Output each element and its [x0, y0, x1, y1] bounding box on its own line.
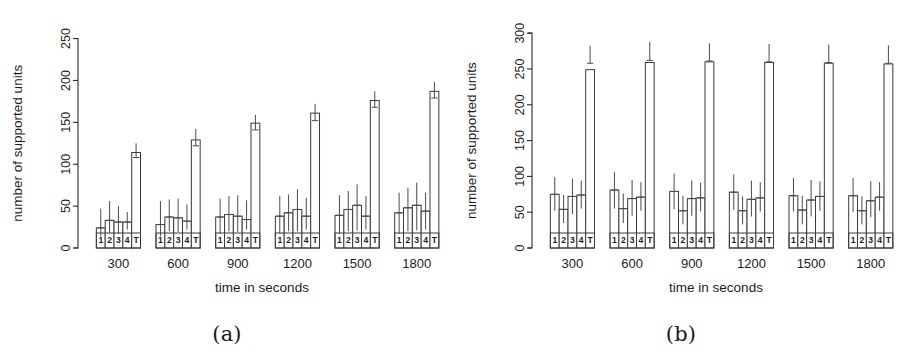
bar-total[interactable]: [645, 63, 654, 248]
bar-label-3: 3: [355, 235, 360, 245]
panel-b-caption: (b): [454, 322, 908, 346]
bar-label-4: 4: [639, 235, 644, 245]
bar-label-1: 1: [337, 235, 342, 245]
bar-label-4: 4: [758, 235, 763, 245]
bar-label-1: 1: [731, 235, 736, 245]
bar-label-2: 2: [621, 235, 626, 245]
x-tick-label: 900: [681, 256, 703, 271]
bar-total[interactable]: [586, 70, 595, 248]
x-tick-label: 600: [167, 256, 189, 271]
x-tick-label: 1200: [283, 256, 312, 271]
bar-group: 1234T1200: [729, 44, 773, 271]
bar-label-3: 3: [414, 235, 419, 245]
bar-group: 1234T600: [156, 129, 200, 271]
bar-group: 1234T1500: [789, 45, 833, 271]
bar-label-3: 3: [749, 235, 754, 245]
bar-label-4: 4: [877, 235, 882, 245]
bar-label-2: 2: [227, 235, 232, 245]
bar-label-3: 3: [630, 235, 635, 245]
bar-label-T: T: [432, 235, 438, 245]
bar-label-T: T: [253, 235, 259, 245]
bar-label-T: T: [647, 235, 653, 245]
bar-label-1: 1: [612, 235, 617, 245]
bar-total[interactable]: [311, 113, 320, 248]
bar-label-1: 1: [277, 235, 282, 245]
bar-label-2: 2: [800, 235, 805, 245]
bar-group: 1234T900: [216, 115, 260, 271]
bar-group: 1234T300: [96, 143, 140, 271]
bar-label-2: 2: [561, 235, 566, 245]
y-tick-label: 50: [513, 205, 527, 219]
bar-total[interactable]: [824, 63, 833, 248]
bar-label-2: 2: [860, 235, 865, 245]
bar-label-4: 4: [364, 235, 369, 245]
x-axis-title: time in seconds: [215, 280, 309, 295]
y-tick-label: 100: [59, 154, 73, 175]
bar-label-T: T: [587, 235, 593, 245]
bar-total[interactable]: [430, 91, 439, 248]
bar-total[interactable]: [765, 63, 774, 248]
bar-label-2: 2: [167, 235, 172, 245]
y-tick-label: 150: [59, 112, 73, 133]
bar-total[interactable]: [884, 64, 893, 248]
bar-label-T: T: [766, 235, 772, 245]
bar-group: 1234T300: [550, 46, 594, 271]
y-tick-label: 250: [513, 58, 527, 79]
bar-total[interactable]: [705, 62, 714, 248]
bar-label-3: 3: [809, 235, 814, 245]
bar-group: 1234T1800: [395, 82, 439, 271]
bar-label-T: T: [312, 235, 318, 245]
y-axis-title: number of supported units: [10, 65, 25, 222]
bar-label-4: 4: [125, 235, 130, 245]
bar-label-T: T: [193, 235, 199, 245]
bar-group: 1234T1200: [275, 104, 319, 271]
x-tick-label: 600: [621, 256, 643, 271]
bar-label-3: 3: [235, 235, 240, 245]
bar-label-3: 3: [295, 235, 300, 245]
y-tick-label: 200: [59, 70, 73, 91]
bar-total[interactable]: [251, 123, 260, 248]
bar-group: 1234T1500: [335, 91, 379, 271]
bar-label-4: 4: [244, 235, 249, 245]
bar-label-2: 2: [740, 235, 745, 245]
bar-label-T: T: [133, 235, 139, 245]
y-tick-label: 0: [59, 244, 73, 251]
panel-b-plot: 050100150200250300number of supported un…: [454, 0, 908, 320]
bar-label-2: 2: [406, 235, 411, 245]
bar-group: 1234T600: [610, 42, 654, 271]
bar-total[interactable]: [132, 153, 141, 249]
y-tick-label: 100: [513, 166, 527, 187]
y-tick-label: 200: [513, 94, 527, 115]
bar-label-1: 1: [98, 235, 103, 245]
x-tick-label: 1500: [343, 256, 372, 271]
x-tick-label: 900: [227, 256, 249, 271]
x-tick-label: 1500: [797, 256, 826, 271]
bar-label-1: 1: [791, 235, 796, 245]
bar-label-1: 1: [851, 235, 856, 245]
bar-label-T: T: [372, 235, 378, 245]
bar-label-1: 1: [218, 235, 223, 245]
x-tick-label: 1800: [402, 256, 431, 271]
bar-label-4: 4: [818, 235, 823, 245]
y-tick-label: 0: [513, 244, 527, 251]
bar-total[interactable]: [370, 101, 379, 248]
y-tick-label: 250: [59, 28, 73, 49]
bar-label-4: 4: [304, 235, 309, 245]
x-tick-label: 1800: [856, 256, 885, 271]
bar-label-3: 3: [570, 235, 575, 245]
bar-label-2: 2: [286, 235, 291, 245]
x-tick-label: 300: [562, 256, 584, 271]
bar-label-1: 1: [672, 235, 677, 245]
panel-a-plot: 050100150200250number of supported units…: [0, 0, 454, 320]
panel-a-caption: (a): [0, 322, 454, 346]
bar-label-4: 4: [579, 235, 584, 245]
bar-label-2: 2: [681, 235, 686, 245]
bar-total[interactable]: [191, 140, 200, 248]
bar-label-2: 2: [107, 235, 112, 245]
x-axis-title: time in seconds: [669, 280, 763, 295]
bar-label-3: 3: [116, 235, 121, 245]
bar-group: 1234T900: [670, 43, 714, 271]
x-tick-label: 300: [108, 256, 130, 271]
bar-label-1: 1: [158, 235, 163, 245]
bar-label-3: 3: [176, 235, 181, 245]
